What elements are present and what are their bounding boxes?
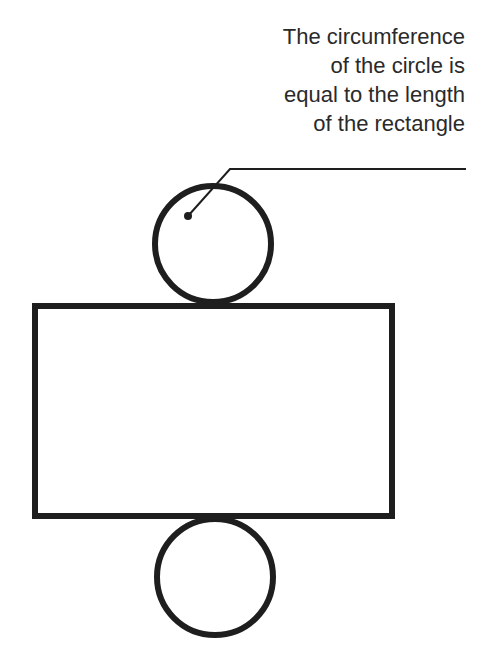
leader-line <box>188 169 466 216</box>
rectangle <box>35 306 392 516</box>
top-circle <box>155 186 271 302</box>
bottom-circle <box>157 519 273 635</box>
leader-dot <box>184 212 192 220</box>
cylinder-net-figure <box>0 0 493 665</box>
